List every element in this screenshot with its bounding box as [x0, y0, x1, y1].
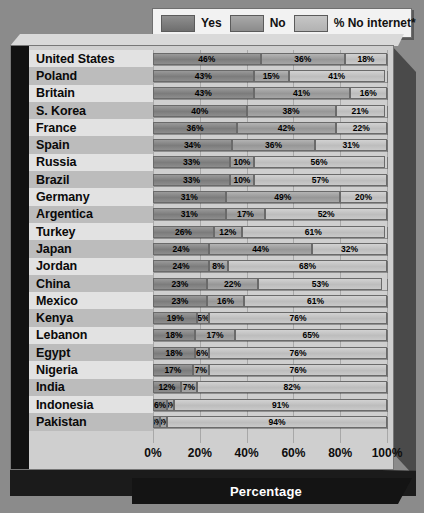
bar-segment-net: 82%: [197, 381, 387, 393]
category-label: India: [29, 380, 65, 394]
category-label-row: Mexico: [29, 292, 153, 309]
stacked-bar: 34%36%31%: [153, 139, 387, 151]
stacked-bar: 24%8%68%: [153, 260, 387, 272]
legend-swatch-yes: [161, 15, 195, 32]
category-label-row: United States: [29, 50, 153, 67]
bar-segment-no: 10%: [230, 156, 253, 168]
bar-segment-yes: 6%: [153, 399, 167, 411]
category-label-row: Pakistan: [29, 413, 153, 430]
category-label: Britain: [29, 86, 75, 100]
bar-row: 34%36%31%: [153, 136, 387, 153]
category-label-row: Russia: [29, 154, 153, 171]
category-label: Argentica: [29, 207, 93, 221]
bar-row: 31%49%20%: [153, 188, 387, 205]
bar-segment-net: 32%: [312, 243, 387, 255]
bar-segment-no: 6%: [195, 347, 209, 359]
bar-segment-net: 20%: [340, 191, 387, 203]
bar-segment-net: 76%: [209, 364, 387, 376]
stacked-bar: 24%44%32%: [153, 243, 387, 255]
bar-segment-net: 21%: [336, 105, 385, 117]
bar-segment-no: 36%: [232, 139, 315, 151]
bar-row: 36%42%22%: [153, 119, 387, 136]
stacked-bar: 43%41%16%: [153, 87, 387, 99]
stacked-bar: 23%16%61%: [153, 295, 387, 307]
bar-segment-yes: 19%: [153, 312, 197, 324]
category-label-row: Brazil: [29, 171, 153, 188]
bar-segment-net: 22%: [336, 122, 387, 134]
bar-row: 26%12%61%: [153, 223, 387, 240]
legend-item-no-internet: % No internet*: [294, 15, 416, 32]
category-label: Mexico: [29, 294, 78, 308]
bar-row: 6%3%91%: [153, 396, 387, 413]
chart-left-wall: [11, 46, 29, 469]
bar-segment-yes: 33%: [153, 174, 230, 186]
bar-segment-no: 7%: [193, 364, 209, 376]
bar-segment-no: 17%: [226, 208, 266, 220]
category-label: Jordan: [29, 259, 77, 273]
category-label: China: [29, 277, 70, 291]
category-label: Nigeria: [29, 363, 78, 377]
bar-segment-net: 16%: [350, 87, 387, 99]
bar-segment-net: 31%: [315, 139, 387, 151]
bar-segment-net: 91%: [174, 399, 387, 411]
stacked-bar: 18%17%65%: [153, 329, 387, 341]
bar-segment-no: 38%: [247, 105, 336, 117]
category-label: Brazil: [29, 173, 69, 187]
stacked-bar: 36%42%22%: [153, 122, 387, 134]
category-label-row: Britain: [29, 85, 153, 102]
bar-segment-no: 3%: [167, 399, 174, 411]
stacked-bar: 31%17%52%: [153, 208, 387, 220]
legend-swatch-no-internet: [294, 15, 328, 32]
bar-row: 19%5%76%: [153, 309, 387, 326]
bar-segment-yes: 43%: [153, 87, 254, 99]
bar-row: 3%3%94%: [153, 413, 387, 430]
bar-segment-yes: 26%: [153, 226, 214, 238]
legend-label-yes: Yes: [201, 16, 222, 30]
category-label: Turkey: [29, 225, 75, 239]
bars-container: 46%36%18%43%15%41%43%41%16%40%38%21%36%4…: [153, 50, 387, 443]
category-label-row: Poland: [29, 67, 153, 84]
bar-segment-yes: 40%: [153, 105, 247, 117]
value-axis: 0%20%40%60%80%100%: [153, 443, 387, 467]
category-label: France: [29, 121, 76, 135]
bar-row: 23%22%53%: [153, 275, 387, 292]
category-label: Indonesia: [29, 398, 93, 412]
bar-segment-no: 16%: [207, 295, 244, 307]
category-label-row: Turkey: [29, 223, 153, 240]
plot-area: United StatesPolandBritainS. KoreaFrance…: [10, 45, 394, 470]
bar-segment-yes: 43%: [153, 70, 254, 82]
category-axis-labels: United StatesPolandBritainS. KoreaFrance…: [29, 50, 153, 443]
bar-row: 43%15%41%: [153, 67, 387, 84]
stacked-bar: 19%5%76%: [153, 312, 387, 324]
bar-segment-yes: 24%: [153, 243, 209, 255]
stacked-bar: 6%3%91%: [153, 399, 387, 411]
category-label-row: Indonesia: [29, 396, 153, 413]
bar-segment-no: 8%: [209, 260, 228, 272]
bar-row: 40%38%21%: [153, 102, 387, 119]
legend-swatch-no: [230, 15, 264, 32]
bar-segment-yes: 23%: [153, 295, 207, 307]
bar-segment-yes: 12%: [153, 381, 181, 393]
bar-segment-yes: 23%: [153, 278, 207, 290]
bar-row: 17%7%76%: [153, 361, 387, 378]
category-label: Poland: [29, 69, 77, 83]
stacked-bar: 3%3%94%: [153, 416, 387, 428]
legend-item-yes: Yes: [161, 15, 222, 32]
category-label-row: Germany: [29, 188, 153, 205]
category-label-row: Kenya: [29, 309, 153, 326]
bar-segment-net: 68%: [228, 260, 387, 272]
bar-segment-no: 41%: [254, 87, 350, 99]
category-label-row: Nigeria: [29, 361, 153, 378]
axis-tick-label: 0%: [144, 446, 161, 460]
bar-segment-no: 10%: [230, 174, 253, 186]
bar-segment-net: 76%: [209, 312, 387, 324]
category-label: Lebanon: [29, 328, 87, 342]
axis-title: Percentage: [230, 484, 314, 499]
bar-row: 33%10%57%: [153, 171, 387, 188]
stacked-bar: 33%10%56%: [153, 156, 387, 168]
legend-item-no: No: [230, 15, 286, 32]
chart-screenshot: Yes No % No internet* United StatesPolan…: [0, 0, 424, 513]
legend-label-no: No: [270, 16, 286, 30]
chart-3d-right-face: [392, 46, 416, 478]
category-label: Germany: [29, 190, 90, 204]
